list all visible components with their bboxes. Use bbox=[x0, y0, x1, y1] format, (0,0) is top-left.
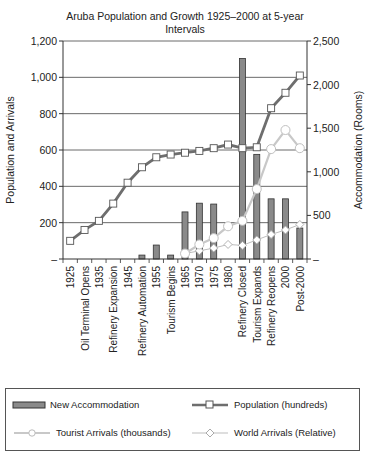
x-category-label: 1980 bbox=[223, 266, 234, 289]
x-category-label: 1945 bbox=[123, 266, 134, 289]
legend-item-population: Population (hundreds) bbox=[190, 399, 327, 410]
bar bbox=[153, 245, 159, 259]
legend-label: Population (hundreds) bbox=[234, 399, 327, 410]
bar bbox=[268, 199, 274, 259]
x-category-label: 1925 bbox=[65, 266, 76, 289]
x-category-label: Tourism Expands bbox=[252, 266, 263, 343]
y2-tick-label: 1,500 bbox=[313, 122, 339, 134]
diamond-marker-line-icon bbox=[190, 428, 230, 438]
y-axis-label: Population and Arrivals bbox=[4, 96, 16, 203]
y2-axis-label: Accommodation (Rooms) bbox=[352, 91, 364, 209]
x-category-label: Refinery Closed bbox=[237, 266, 248, 337]
y-tick-label: 1,000 bbox=[31, 71, 57, 83]
y-tick-label: 800 bbox=[39, 108, 57, 120]
x-category-label: Refinery Automation bbox=[137, 266, 148, 356]
bar bbox=[139, 255, 145, 259]
legend-label: New Accommodation bbox=[50, 399, 139, 410]
y2-tick-label: 500 bbox=[313, 209, 331, 221]
y-tick-label: – bbox=[51, 253, 57, 265]
legend-item-world-arrivals: World Arrivals (Relative) bbox=[190, 427, 336, 438]
legend-label: World Arrivals (Relative) bbox=[234, 427, 336, 438]
x-category-label: Refinery Expansion bbox=[108, 266, 119, 353]
circle-marker-line-icon bbox=[12, 428, 52, 438]
x-axis-category-labels: 1925Oil Terminal Opens1935Refinery Expan… bbox=[65, 266, 306, 356]
bar bbox=[168, 255, 174, 259]
y2-tick-label: 2,000 bbox=[313, 79, 339, 91]
x-category-label: 1970 bbox=[194, 266, 205, 289]
legend: New Accommodation Population (hundreds) … bbox=[5, 388, 360, 451]
y-tick-label: 200 bbox=[39, 217, 57, 229]
chart-title-line-2: Intervals bbox=[165, 23, 205, 35]
x-category-label: Refinery Reopens bbox=[266, 266, 277, 346]
y2-tick-label: 1,000 bbox=[313, 166, 339, 178]
y2-tick-label: 2,500 bbox=[313, 35, 339, 47]
y-tick-label: 600 bbox=[39, 144, 57, 156]
x-category-label: Oil Terminal Opens bbox=[80, 266, 91, 351]
bar-swatch-icon bbox=[12, 400, 46, 410]
x-category-label: Post-2000 bbox=[295, 266, 306, 312]
legend-item-new-accommodation: New Accommodation bbox=[12, 399, 139, 410]
bar bbox=[239, 58, 245, 259]
x-category-label: Tourism Begins bbox=[166, 266, 177, 334]
x-category-label: 1965 bbox=[180, 266, 191, 289]
y-tick-label: 1,200 bbox=[31, 35, 57, 47]
bar-series-new-accommodation bbox=[139, 58, 303, 259]
gridlines bbox=[63, 41, 307, 223]
square-marker-line-icon bbox=[190, 400, 230, 410]
bar bbox=[297, 228, 303, 259]
legend-item-tourist-arrivals: Tourist Arrivals (thousands) bbox=[12, 427, 171, 438]
x-category-label: 1955 bbox=[151, 266, 162, 289]
y2-tick-label: – bbox=[313, 253, 319, 265]
x-category-label: 1975 bbox=[209, 266, 220, 289]
x-category-label: 1935 bbox=[94, 266, 105, 289]
legend-label: Tourist Arrivals (thousands) bbox=[56, 427, 171, 438]
chart-title-line-1: Aruba Population and Growth 1925–2000 at… bbox=[66, 10, 304, 22]
x-category-label: 2000 bbox=[280, 266, 291, 289]
y-tick-label: 400 bbox=[39, 180, 57, 192]
